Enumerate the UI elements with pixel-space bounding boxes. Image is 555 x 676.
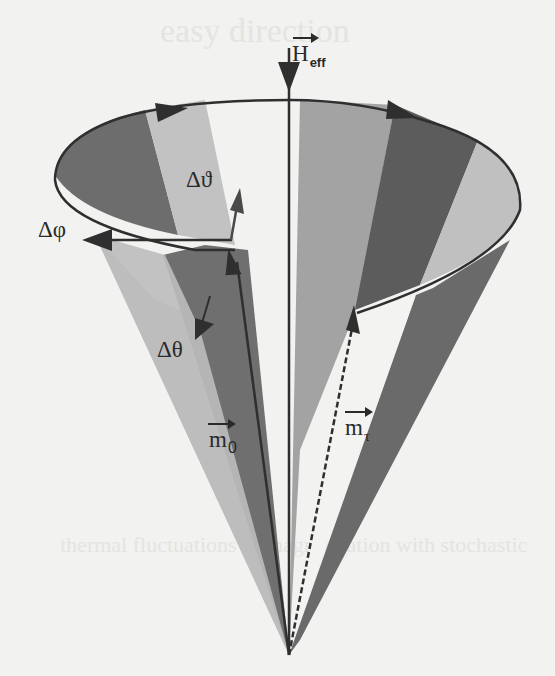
- rim-arrow-right: [386, 100, 418, 119]
- delta-phi-arrowhead: [82, 229, 112, 251]
- m0-vector-arrow: [208, 423, 230, 425]
- h-eff-label: Heff: [292, 42, 326, 65]
- precession-cone-diagram: [0, 0, 555, 676]
- delta-vartheta-label: Δϑ: [186, 168, 212, 191]
- cone-bands: [55, 100, 520, 655]
- m-tau-vector-arrow: [345, 411, 367, 413]
- delta-theta-label: Δθ: [157, 338, 183, 361]
- m-tau-label: mτ: [345, 416, 370, 439]
- delta-phi-label: Δφ: [38, 218, 66, 241]
- h-eff-arrowhead: [278, 62, 300, 92]
- m0-label: m0: [209, 428, 237, 451]
- h-eff-vector-arrow: [293, 37, 313, 39]
- delta-vartheta-arrowhead: [230, 188, 244, 214]
